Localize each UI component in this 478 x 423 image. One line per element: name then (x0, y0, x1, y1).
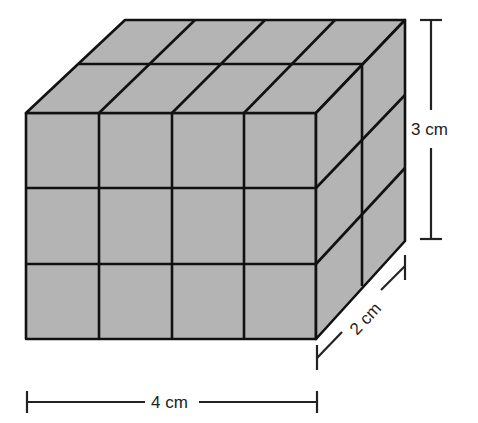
length-label: 4 cm (151, 393, 188, 412)
depth-label: 2 cm (346, 299, 385, 339)
height-label: 3 cm (411, 120, 448, 139)
cube-prism-diagram: 3 cm 2 cm 4 cm (0, 0, 478, 423)
